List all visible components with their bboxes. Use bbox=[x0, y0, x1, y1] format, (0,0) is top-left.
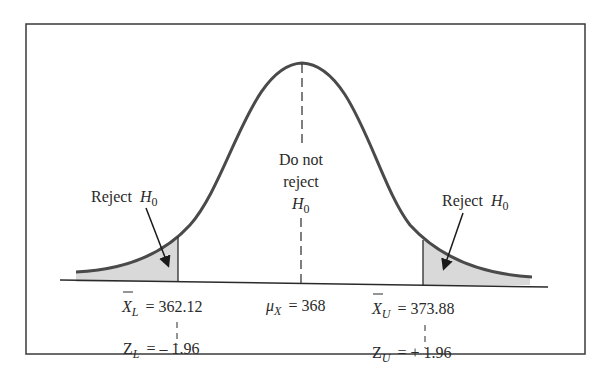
upper-critical-value-label: XU = 373.88 bbox=[371, 300, 454, 321]
upper-z-label: ZU = + 1.96 bbox=[372, 344, 452, 365]
reject-right-label: Reject H0 bbox=[442, 192, 508, 213]
do-not-reject-line1: Do not bbox=[279, 151, 324, 168]
right-rejection-region bbox=[423, 240, 530, 285]
mean-label: μX = 368 bbox=[265, 297, 325, 318]
lower-z-label: ZL = – 1.96 bbox=[123, 340, 200, 361]
do-not-reject-h0: H0 bbox=[291, 195, 310, 216]
do-not-reject-line2: reject bbox=[283, 173, 319, 191]
left-rejection-region bbox=[76, 237, 178, 282]
reject-left-label: Reject H0 bbox=[91, 188, 157, 209]
normal-distribution-diagram: Reject H0 Reject H0 Do not reject H0 XL … bbox=[0, 0, 596, 374]
lower-critical-value-label: XL = 362.12 bbox=[121, 298, 203, 319]
normal-curve bbox=[76, 63, 532, 277]
